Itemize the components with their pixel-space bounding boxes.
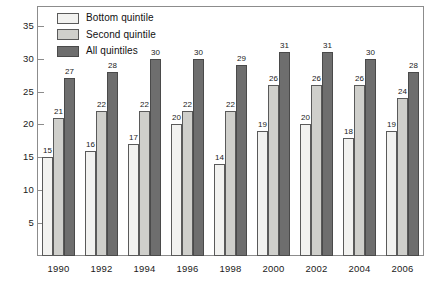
bar <box>214 164 225 256</box>
bar <box>150 59 161 256</box>
y-tick-label: 35 <box>0 21 34 31</box>
x-tick-label: 1996 <box>177 263 199 274</box>
bar-value-label: 19 <box>258 120 267 129</box>
y-tick-label: 30 <box>0 54 34 64</box>
x-tick-label: 1998 <box>220 263 242 274</box>
x-tick-label: 1992 <box>91 263 113 274</box>
bar <box>386 131 397 256</box>
y-tick-label: 5 <box>0 218 34 228</box>
x-axis: 199019921994199619982000200220042006 <box>37 259 424 281</box>
legend-item: Second quintile <box>57 28 187 42</box>
bar-value-label: 17 <box>129 133 138 142</box>
bar <box>300 124 311 256</box>
bar-value-label: 26 <box>355 74 364 83</box>
bar-value-label: 22 <box>140 100 149 109</box>
bar-value-label: 31 <box>280 41 289 50</box>
bar <box>408 72 419 256</box>
legend-label: Second quintile <box>86 30 156 40</box>
bar <box>171 124 182 256</box>
bar-value-label: 21 <box>54 107 63 116</box>
x-tick-label: 2000 <box>263 263 285 274</box>
bar <box>279 52 290 256</box>
bar <box>128 144 139 256</box>
bar-value-label: 15 <box>43 146 52 155</box>
bar-value-label: 26 <box>312 74 321 83</box>
legend-swatch <box>57 29 79 40</box>
bar <box>268 85 279 256</box>
x-tick-label: 2004 <box>349 263 371 274</box>
y-axis: 5101520253035 <box>0 6 34 256</box>
legend-label: All quintiles <box>86 46 138 56</box>
x-tick-label: 1990 <box>48 263 70 274</box>
x-tick-label: 2006 <box>392 263 414 274</box>
y-tick-label: 20 <box>0 120 34 130</box>
bar <box>311 85 322 256</box>
bar <box>354 85 365 256</box>
bar <box>397 98 408 256</box>
bar-value-label: 22 <box>97 100 106 109</box>
bar-value-label: 19 <box>387 120 396 129</box>
bar-value-label: 26 <box>269 74 278 83</box>
chart-legend: Bottom quintileSecond quintileAll quinti… <box>57 11 187 61</box>
bar <box>236 65 247 256</box>
bar-value-label: 31 <box>323 41 332 50</box>
bar-value-label: 20 <box>301 113 310 122</box>
legend-swatch <box>57 46 79 57</box>
bar <box>107 72 118 256</box>
bar-value-label: 18 <box>344 127 353 136</box>
bar <box>85 151 96 256</box>
legend-item: Bottom quintile <box>57 11 187 25</box>
bar <box>343 138 354 256</box>
bar-value-label: 30 <box>366 48 375 57</box>
legend-item: All quintiles <box>57 44 187 58</box>
bar-value-label: 14 <box>215 153 224 162</box>
bar-value-label: 20 <box>172 113 181 122</box>
bar <box>322 52 333 256</box>
bar-value-label: 22 <box>226 100 235 109</box>
bar <box>42 157 53 256</box>
bar <box>225 111 236 256</box>
bar-value-label: 27 <box>65 67 74 76</box>
bar-value-label: 22 <box>183 100 192 109</box>
legend-swatch <box>57 13 79 24</box>
x-tick-label: 2002 <box>306 263 328 274</box>
bar-value-label: 16 <box>86 140 95 149</box>
y-tick-label: 10 <box>0 185 34 195</box>
bar-value-label: 30 <box>194 48 203 57</box>
bar <box>182 111 193 256</box>
y-tick-label: 25 <box>0 87 34 97</box>
x-tick-label: 1994 <box>134 263 156 274</box>
bar-value-label: 28 <box>409 61 418 70</box>
bar-value-label: 29 <box>237 54 246 63</box>
bar-chart: 5101520253035 15212716222817223020223014… <box>0 0 431 283</box>
bar <box>257 131 268 256</box>
bar <box>365 59 376 256</box>
legend-label: Bottom quintile <box>86 13 154 23</box>
bar <box>139 111 150 256</box>
bar-value-label: 28 <box>108 61 117 70</box>
bar <box>53 118 64 256</box>
y-tick-label: 15 <box>0 153 34 163</box>
bar-value-label: 24 <box>398 87 407 96</box>
bar <box>64 78 75 256</box>
bar <box>96 111 107 256</box>
bar <box>193 59 204 256</box>
